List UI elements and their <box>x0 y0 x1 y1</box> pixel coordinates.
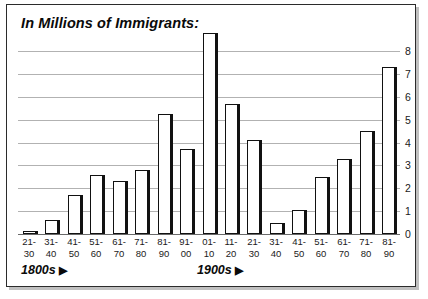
x-axis-tick-label: 11-20 <box>220 236 242 259</box>
y-axis-tick-label: 3 <box>405 160 419 171</box>
x-axis-tick-label-line: 20 <box>220 248 242 260</box>
x-axis-tick-label: 81-90 <box>153 236 175 259</box>
x-axis-tick-label-line: 61- <box>108 236 130 248</box>
bar <box>225 104 238 234</box>
x-axis-tick-label: 81-90 <box>378 236 400 259</box>
bar <box>45 220 58 234</box>
x-axis-tick-label-line: 61- <box>333 236 355 248</box>
x-axis-tick-label-line: 50 <box>288 248 310 260</box>
x-axis-tick-label-line: 01- <box>198 236 220 248</box>
x-axis-tick-label-line: 60 <box>85 248 107 260</box>
bar <box>158 114 171 234</box>
y-axis-tick-label: 1 <box>405 206 419 217</box>
bar <box>68 195 81 234</box>
x-axis-tick-label: 71-80 <box>130 236 152 259</box>
y-axis-tick-label: 0 <box>405 229 419 240</box>
era-label-1800s: 1800s▶ <box>21 263 67 277</box>
x-axis-tick-label: 01-10 <box>198 236 220 259</box>
x-axis-tick-label: 41-50 <box>63 236 85 259</box>
x-axis-tick-label-line: 40 <box>265 248 287 260</box>
x-axis-tick-label-line: 41- <box>63 236 85 248</box>
x-axis-tick-label-line: 30 <box>18 248 40 260</box>
x-axis-tick-label-line: 81- <box>153 236 175 248</box>
gridline-0 <box>18 234 400 235</box>
x-axis-tick-label: 61-70 <box>108 236 130 259</box>
x-axis-tick-label-line: 90 <box>378 248 400 260</box>
era-1900s-text: 1900s <box>197 263 232 277</box>
bar <box>360 131 373 234</box>
x-axis-tick-label: 41-50 <box>288 236 310 259</box>
x-axis-tick-label-line: 00 <box>175 248 197 260</box>
bar <box>292 210 305 234</box>
y-axis-tick-label: 7 <box>405 69 419 80</box>
bar <box>315 177 328 234</box>
y-axis-tick-label: 5 <box>405 115 419 126</box>
x-axis-tick-label-line: 10 <box>198 248 220 260</box>
x-axis-tick-label-line: 40 <box>40 248 62 260</box>
plot-area <box>18 51 400 234</box>
x-axis-tick-label: 71-80 <box>355 236 377 259</box>
x-axis-tick-label-line: 50 <box>63 248 85 260</box>
y-axis-tick-label: 4 <box>405 138 419 149</box>
x-axis-tick-label-line: 70 <box>333 248 355 260</box>
bar <box>90 175 103 234</box>
bar <box>382 67 395 234</box>
x-axis-tick-label-line: 21- <box>243 236 265 248</box>
x-axis-tick-label-line: 30 <box>243 248 265 260</box>
bar <box>337 159 350 234</box>
x-axis-tick-label: 31-40 <box>265 236 287 259</box>
bar <box>23 231 36 234</box>
x-axis-tick-label-line: 31- <box>265 236 287 248</box>
era-1800s-text: 1800s <box>21 263 56 277</box>
x-axis-tick-label-line: 91- <box>175 236 197 248</box>
bar <box>135 170 148 234</box>
x-axis-tick-label-line: 60 <box>310 248 332 260</box>
bar <box>113 181 126 234</box>
x-axis-tick-label-line: 90 <box>153 248 175 260</box>
y-axis-labels: 012345678 <box>405 51 427 234</box>
era-label-1900s: 1900s▶ <box>197 263 243 277</box>
x-axis-tick-label-line: 51- <box>310 236 332 248</box>
x-axis-tick-label-line: 80 <box>130 248 152 260</box>
era-row: 1800s▶ 1900s▶ <box>7 263 415 287</box>
x-axis-tick-label-line: 70 <box>108 248 130 260</box>
x-axis-tick-label: 51-60 <box>310 236 332 259</box>
bar <box>203 33 216 234</box>
y-axis-tick-label: 8 <box>405 46 419 57</box>
x-axis-tick-label: 21-30 <box>18 236 40 259</box>
chart-card: In Millions of Immigrants: 012345678 21-… <box>6 4 416 287</box>
bar <box>270 223 283 234</box>
bar <box>180 149 193 234</box>
x-axis-tick-label-line: 71- <box>130 236 152 248</box>
x-axis-tick-label: 31-40 <box>40 236 62 259</box>
y-axis-tick-label: 6 <box>405 92 419 103</box>
x-axis-tick-label-line: 31- <box>40 236 62 248</box>
x-axis-tick-label: 61-70 <box>333 236 355 259</box>
page-title: In Millions of Immigrants: <box>21 15 199 31</box>
x-axis-tick-label-line: 81- <box>378 236 400 248</box>
x-axis-tick-label-line: 51- <box>85 236 107 248</box>
x-axis-tick-label-line: 71- <box>355 236 377 248</box>
triangle-right-icon: ▶ <box>235 264 243 276</box>
x-axis-tick-label-line: 11- <box>220 236 242 248</box>
y-axis-tick-label: 2 <box>405 183 419 194</box>
bar-series <box>18 51 400 234</box>
bar <box>247 140 260 234</box>
x-axis-tick-label-line: 41- <box>288 236 310 248</box>
x-axis-tick-label-line: 80 <box>355 248 377 260</box>
x-axis-tick-label: 21-30 <box>243 236 265 259</box>
triangle-right-icon: ▶ <box>59 264 67 276</box>
x-axis-labels: 21-3031-4041-5051-6061-7071-8081-9091-00… <box>18 236 400 264</box>
x-axis-tick-label: 91-00 <box>175 236 197 259</box>
x-axis-tick-label: 51-60 <box>85 236 107 259</box>
x-axis-tick-label-line: 21- <box>18 236 40 248</box>
